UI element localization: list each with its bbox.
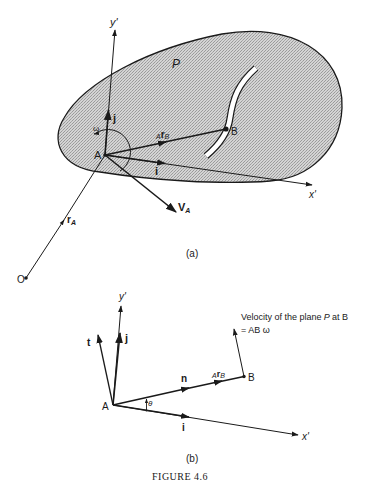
sublabel-b: (b) (186, 453, 198, 464)
j-label-b: j (124, 332, 128, 344)
point-a-dot-a (103, 153, 107, 157)
i-label-a: i (155, 165, 158, 177)
n-label-b: n (181, 373, 187, 384)
point-b-label-a: B (231, 126, 238, 137)
velocity-b-vector (234, 329, 244, 377)
rB-label-b: ArB (211, 369, 225, 379)
sublabel-a: (a) (186, 248, 198, 259)
y-axis-label-a: y' (109, 16, 119, 28)
x-axis-label-b: x' (301, 431, 310, 442)
x-axis-label-a: x' (308, 189, 317, 200)
i-label-b: i (182, 422, 185, 433)
va-label-a: VA (178, 201, 190, 214)
rA-label-a: rA (67, 214, 76, 226)
y-axis-label-b: y' (118, 291, 127, 302)
j-label-a: j (112, 112, 116, 124)
origin-o-label: O (17, 274, 25, 285)
velocity-note-line2: = AB ω (241, 325, 270, 335)
j-vector-b (113, 333, 120, 405)
velocity-note-line1: Velocity of the plane P at B (241, 312, 348, 322)
figure-canvas: y' P j ω A B ArB i x' VA rA O (a) (0, 0, 377, 487)
point-b-a (223, 126, 228, 131)
figure-caption: FIGURE 4.6 (152, 471, 208, 482)
point-b-label-b: B (248, 372, 255, 383)
point-a-label-a: A (94, 149, 102, 161)
plane-p-label: P (172, 57, 180, 71)
rB-vector-b (185, 381, 222, 389)
theta-label: θ (148, 399, 153, 408)
omega-label-a: ω (93, 124, 99, 133)
rA-vector-a (26, 220, 64, 278)
t-vector-b (98, 335, 113, 405)
t-label-b: t (87, 337, 91, 348)
point-a-label-b: A (102, 401, 109, 412)
panel-a: y' P j ω A B ArB i x' VA rA O (a) (17, 16, 342, 285)
panel-b: y' t j A θ n ArB B i x' Velocity of the … (87, 291, 348, 464)
